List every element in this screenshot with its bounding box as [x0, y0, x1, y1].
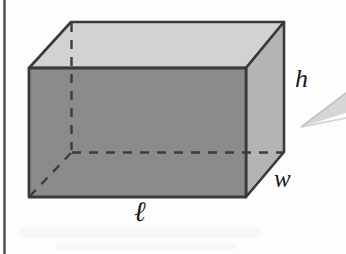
prism-drawing	[0, 0, 346, 254]
dimension-label-length: ℓ	[134, 198, 146, 226]
dimension-label-height: h	[295, 66, 308, 92]
dimension-label-width: w	[274, 166, 291, 191]
prism-top-face	[29, 22, 284, 68]
prism-front-face	[29, 68, 246, 197]
rectangular-prism-figure: h w ℓ	[0, 0, 346, 254]
